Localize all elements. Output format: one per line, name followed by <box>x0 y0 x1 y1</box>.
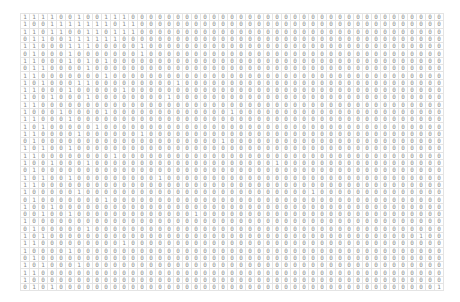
matrix-cell: 0 <box>147 189 156 196</box>
matrix-cell: 0 <box>228 57 237 64</box>
matrix-row: 1100000001000000000000000000000000000000… <box>21 72 444 79</box>
matrix-cell: 0 <box>192 240 201 247</box>
matrix-cell: 1 <box>39 79 48 86</box>
matrix-cell: 0 <box>381 138 390 145</box>
matrix-cell: 0 <box>138 262 147 269</box>
matrix-cell: 0 <box>210 130 219 137</box>
binary-matrix-grid: 1111001001110000000000000000000000000000… <box>20 13 444 291</box>
matrix-cell: 0 <box>345 203 354 210</box>
matrix-cell: 0 <box>264 181 273 188</box>
matrix-cell: 0 <box>66 79 75 86</box>
matrix-cell: 0 <box>165 203 174 210</box>
matrix-cell: 0 <box>183 43 192 50</box>
matrix-cell: 0 <box>66 218 75 225</box>
matrix-cell: 0 <box>399 203 408 210</box>
matrix-cell: 0 <box>183 232 192 239</box>
matrix-cell: 0 <box>273 50 282 57</box>
matrix-cell: 0 <box>291 167 300 174</box>
matrix-cell: 1 <box>21 232 30 239</box>
matrix-cell: 0 <box>219 181 228 188</box>
matrix-cell: 0 <box>426 57 435 64</box>
matrix-cell: 0 <box>192 145 201 152</box>
matrix-cell: 1 <box>165 94 174 101</box>
matrix-cell: 0 <box>129 116 138 123</box>
matrix-cell: 0 <box>120 283 129 290</box>
matrix-cell: 0 <box>291 28 300 35</box>
matrix-cell: 0 <box>390 167 399 174</box>
matrix-cell: 0 <box>273 145 282 152</box>
matrix-cell: 0 <box>318 57 327 64</box>
matrix-cell: 1 <box>66 21 75 28</box>
matrix-cell: 0 <box>318 145 327 152</box>
matrix-cell: 0 <box>210 247 219 254</box>
matrix-cell: 0 <box>246 196 255 203</box>
matrix-cell: 0 <box>300 43 309 50</box>
matrix-cell: 0 <box>201 28 210 35</box>
matrix-cell: 0 <box>210 21 219 28</box>
matrix-cell: 0 <box>147 203 156 210</box>
matrix-cell: 0 <box>264 225 273 232</box>
matrix-cell: 0 <box>264 152 273 159</box>
matrix-cell: 0 <box>255 101 264 108</box>
matrix-cell: 0 <box>120 130 129 137</box>
matrix-cell: 0 <box>21 211 30 218</box>
matrix-cell: 0 <box>48 232 57 239</box>
matrix-cell: 0 <box>309 167 318 174</box>
matrix-cell: 0 <box>102 86 111 93</box>
matrix-cell: 0 <box>399 254 408 261</box>
matrix-cell: 0 <box>291 138 300 145</box>
matrix-cell: 0 <box>300 211 309 218</box>
matrix-cell: 0 <box>111 181 120 188</box>
matrix-cell: 1 <box>273 159 282 166</box>
matrix-cell: 0 <box>417 130 426 137</box>
matrix-cell: 0 <box>399 35 408 42</box>
matrix-cell: 0 <box>165 196 174 203</box>
matrix-cell: 0 <box>255 21 264 28</box>
matrix-cell: 0 <box>345 247 354 254</box>
matrix-cell: 0 <box>399 247 408 254</box>
matrix-cell: 0 <box>156 138 165 145</box>
matrix-cell: 0 <box>291 232 300 239</box>
matrix-cell: 0 <box>237 21 246 28</box>
matrix-cell: 0 <box>183 50 192 57</box>
matrix-cell: 0 <box>201 276 210 283</box>
matrix-cell: 0 <box>147 254 156 261</box>
matrix-cell: 0 <box>75 196 84 203</box>
matrix-cell: 0 <box>138 14 147 21</box>
matrix-cell: 0 <box>435 167 444 174</box>
matrix-cell: 0 <box>381 174 390 181</box>
matrix-cell: 0 <box>363 247 372 254</box>
matrix-cell: 0 <box>147 65 156 72</box>
matrix-cell: 0 <box>327 86 336 93</box>
matrix-cell: 0 <box>345 138 354 145</box>
matrix-cell: 0 <box>426 35 435 42</box>
matrix-cell: 0 <box>48 276 57 283</box>
matrix-cell: 0 <box>183 14 192 21</box>
matrix-cell: 0 <box>300 94 309 101</box>
matrix-cell: 0 <box>147 196 156 203</box>
matrix-cell: 0 <box>291 269 300 276</box>
matrix-cell: 0 <box>291 43 300 50</box>
matrix-cell: 0 <box>138 28 147 35</box>
matrix-cell: 0 <box>273 262 282 269</box>
matrix-cell: 0 <box>300 262 309 269</box>
matrix-cell: 0 <box>246 28 255 35</box>
matrix-cell: 0 <box>399 138 408 145</box>
matrix-cell: 0 <box>102 43 111 50</box>
matrix-cell: 0 <box>138 283 147 290</box>
matrix-cell: 0 <box>237 130 246 137</box>
matrix-cell: 0 <box>282 86 291 93</box>
matrix-cell: 0 <box>237 218 246 225</box>
matrix-cell: 0 <box>390 196 399 203</box>
matrix-cell: 0 <box>300 79 309 86</box>
matrix-cell: 0 <box>147 79 156 86</box>
matrix-cell: 0 <box>210 174 219 181</box>
matrix-row: 1100001000000100000000000000000000000000… <box>21 130 444 137</box>
matrix-cell: 0 <box>390 159 399 166</box>
matrix-cell: 0 <box>417 283 426 290</box>
matrix-cell: 0 <box>129 174 138 181</box>
matrix-cell: 0 <box>156 240 165 247</box>
matrix-cell: 0 <box>426 86 435 93</box>
matrix-cell: 0 <box>219 43 228 50</box>
matrix-cell: 0 <box>111 159 120 166</box>
